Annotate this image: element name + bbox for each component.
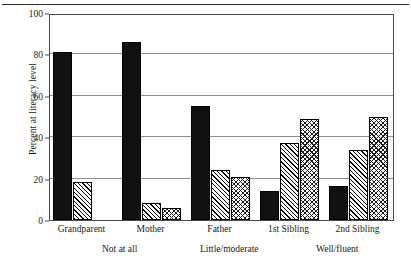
- x-axis-category-label: 2nd Sibling: [335, 224, 379, 234]
- legend-swatch-icon: [177, 243, 195, 254]
- y-axis-tick-label: 60: [34, 92, 44, 102]
- x-axis-category-label: Mother: [137, 224, 165, 234]
- bar: [73, 182, 92, 220]
- bar-group: [326, 15, 395, 220]
- x-axis-category-label: Father: [207, 224, 231, 234]
- bar: [53, 52, 72, 220]
- y-axis-tick-label: 80: [34, 50, 44, 60]
- bar-group: [50, 15, 119, 220]
- bar: [280, 143, 299, 220]
- x-axis-category-label: Grandparent: [58, 224, 105, 234]
- bar: [231, 177, 250, 220]
- legend-swatch-icon: [79, 243, 97, 254]
- legend-swatch-icon: [293, 243, 311, 254]
- bar: [162, 208, 181, 220]
- y-axis-tick-label: 20: [34, 175, 44, 185]
- y-axis-tick-label: 0: [38, 216, 43, 226]
- legend-item: Well/fluent: [293, 243, 359, 254]
- y-axis-tick-labels: 020406080100: [0, 0, 49, 221]
- y-axis-tick-label: 100: [29, 9, 43, 19]
- legend-item: Not at all: [79, 243, 137, 254]
- chart-legend: Not at allLittle/moderateWell/fluent: [49, 243, 394, 261]
- bar: [329, 186, 348, 220]
- plot-area: [49, 14, 394, 221]
- bar: [300, 119, 319, 220]
- bars-layer: [50, 15, 393, 220]
- bar-chart-figure: Percent at literacy level 020406080100 G…: [0, 0, 411, 275]
- legend-label: Little/moderate: [200, 244, 259, 254]
- x-axis-category-labels: GrandparentMotherFather1st Sibling2nd Si…: [49, 224, 394, 240]
- bar: [349, 150, 368, 220]
- bar: [122, 42, 141, 220]
- x-axis-category-label: 1st Sibling: [268, 224, 309, 234]
- bar-group: [119, 15, 188, 220]
- y-axis-tick-label: 40: [34, 133, 44, 143]
- bar: [260, 191, 279, 220]
- legend-item: Little/moderate: [177, 243, 259, 254]
- legend-label: Well/fluent: [316, 244, 359, 254]
- bar: [211, 170, 230, 220]
- bar: [191, 106, 210, 220]
- bar-group: [188, 15, 257, 220]
- bar: [369, 117, 388, 221]
- bar-group: [257, 15, 326, 220]
- legend-label: Not at all: [102, 244, 137, 254]
- bar: [142, 203, 161, 220]
